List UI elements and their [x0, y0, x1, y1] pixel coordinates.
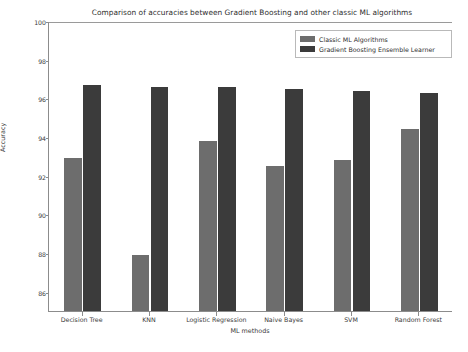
- x-tick-label: Naive Bayes: [264, 316, 303, 323]
- x-tick-mark: [351, 312, 352, 316]
- legend-item-classic: Classic ML Algorithms: [300, 34, 446, 44]
- bar: [83, 85, 101, 311]
- legend-item-ensemble: Gradient Boosting Ensemble Learner: [300, 44, 446, 54]
- y-tick-label: 94: [38, 135, 46, 142]
- x-tick-mark: [216, 312, 217, 316]
- bar: [285, 89, 303, 311]
- chart-legend: Classic ML Algorithms Gradient Boosting …: [295, 30, 452, 58]
- x-tick-label: Logistic Regression: [186, 316, 246, 323]
- bar: [64, 158, 82, 311]
- x-tick-label: KNN: [142, 316, 156, 323]
- y-tick-label: 88: [38, 251, 46, 258]
- bar: [132, 255, 150, 311]
- y-axis-label: Accuracy: [0, 123, 7, 152]
- x-tick-label: Decision Tree: [61, 316, 103, 323]
- bar: [199, 141, 217, 311]
- legend-swatch-icon: [300, 36, 315, 42]
- x-tick-label: SVM: [344, 316, 358, 323]
- bar: [334, 160, 352, 311]
- y-tick-label: 90: [38, 212, 46, 219]
- x-axis-label: ML methods: [48, 327, 452, 335]
- legend-swatch-icon: [300, 46, 315, 52]
- bar: [353, 91, 371, 311]
- legend-item-label: Gradient Boosting Ensemble Learner: [319, 46, 435, 53]
- legend-item-label: Classic ML Algorithms: [319, 36, 388, 43]
- y-tick-label: 98: [38, 57, 46, 64]
- bar: [218, 87, 236, 311]
- x-tick-mark: [284, 312, 285, 316]
- x-tick-mark: [82, 312, 83, 316]
- y-tick-label: 96: [38, 96, 46, 103]
- bar: [151, 87, 169, 311]
- bar: [420, 93, 438, 311]
- chart-figure: Comparison of accuracies between Gradien…: [0, 0, 468, 352]
- y-tick-label: 100: [34, 19, 46, 26]
- bar: [401, 129, 419, 311]
- x-tick-mark: [418, 312, 419, 316]
- plot-area: [48, 22, 452, 312]
- y-tick-label: 92: [38, 173, 46, 180]
- bars-layer: [49, 22, 452, 311]
- y-tick-label: 86: [38, 289, 46, 296]
- bar: [266, 166, 284, 311]
- chart-title: Comparison of accuracies between Gradien…: [48, 8, 456, 18]
- x-tick-label: Random Forest: [395, 316, 442, 323]
- x-tick-mark: [149, 312, 150, 316]
